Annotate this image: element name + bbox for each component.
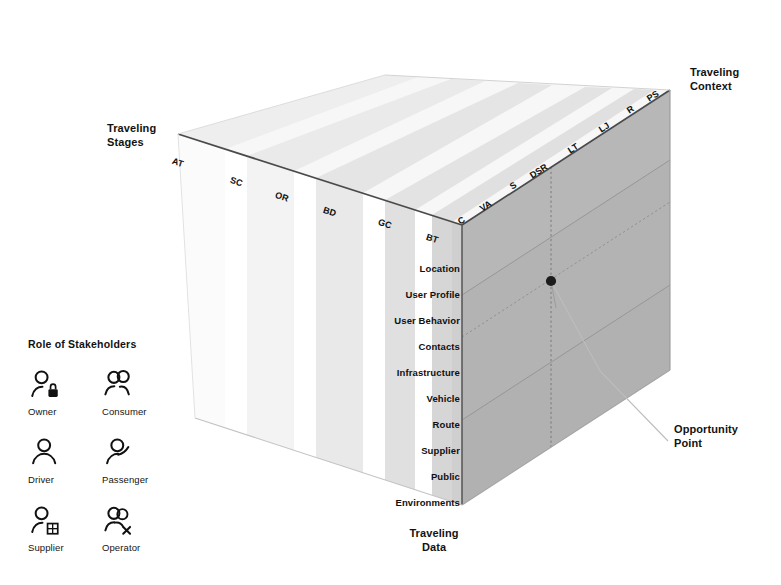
- legend-item-owner: Owner: [28, 368, 102, 430]
- data-tick-user-profile: User Profile: [405, 289, 460, 300]
- legend-item-consumer: Consumer: [102, 368, 176, 430]
- axis-title-traveling-stages: Traveling Stages: [107, 122, 156, 150]
- two-people-icon: [102, 368, 136, 402]
- data-tick-public: Public: [431, 471, 460, 482]
- legend-role-of-stakeholders: Role of Stakeholders Owner: [28, 338, 188, 566]
- axis-title-traveling-data: Traveling Data: [392, 527, 476, 555]
- data-tick-user-behavior: User Behavior: [394, 315, 460, 326]
- opportunity-point-dot[interactable]: [546, 276, 556, 286]
- legend-label-driver: Driver: [28, 474, 54, 485]
- legend-item-supplier: Supplier: [28, 504, 102, 566]
- axis-title-traveling-context: Traveling Context: [690, 66, 739, 94]
- legend-item-driver: Driver: [28, 436, 102, 498]
- data-tick-vehicle: Vehicle: [427, 393, 460, 404]
- person-x-icon: [102, 504, 136, 538]
- legend-item-passenger: Passenger: [102, 436, 176, 498]
- legend-label-passenger: Passenger: [102, 474, 148, 485]
- data-tick-route: Route: [433, 419, 460, 430]
- legend-label-owner: Owner: [28, 406, 56, 417]
- data-tick-location: Location: [420, 263, 460, 274]
- legend-label-operator: Operator: [102, 542, 140, 553]
- data-tick-contacts: Contacts: [419, 341, 460, 352]
- legend-label-consumer: Consumer: [102, 406, 147, 417]
- data-tick-supplier: Supplier: [421, 445, 460, 456]
- person-lock-icon: [28, 368, 62, 402]
- legend-item-operator: Operator: [102, 504, 176, 566]
- legend-items: Owner Consumer Driver: [28, 368, 188, 566]
- data-tick-environments: Environments: [395, 497, 460, 508]
- opportunity-point-label: Opportunity Point: [674, 423, 738, 451]
- diagram-canvas: Traveling Stages Traveling Context Trave…: [0, 0, 781, 585]
- legend-label-supplier: Supplier: [28, 542, 64, 553]
- data-tick-infrastructure: Infrastructure: [397, 367, 460, 378]
- legend-title: Role of Stakeholders: [28, 338, 188, 350]
- person-arm-icon: [102, 436, 136, 470]
- person-icon: [28, 436, 62, 470]
- person-grid-icon: [28, 504, 62, 538]
